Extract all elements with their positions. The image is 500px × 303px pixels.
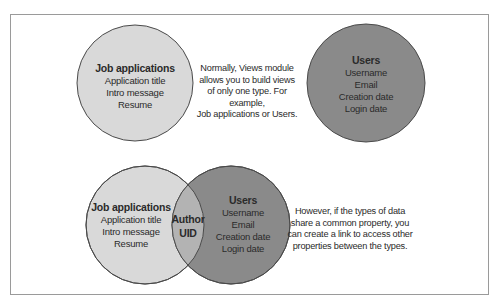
note-line: allows you to build views <box>191 75 303 87</box>
note-line: properties between the types. <box>280 241 420 253</box>
note-top: Normally, Views module allows you to bui… <box>191 63 303 121</box>
note-line: Normally, Views module <box>191 63 303 75</box>
field: Creation date <box>205 231 281 243</box>
overlap-line: UID <box>166 226 210 240</box>
circle-title: Users <box>316 53 416 67</box>
field: Resume <box>88 238 174 250</box>
field: Resume <box>85 99 185 111</box>
field: Application title <box>85 75 185 87</box>
field: Intro message <box>88 226 174 238</box>
job-applications-label-bottom: Job applications Application title Intro… <box>88 200 174 250</box>
field: Email <box>205 219 281 231</box>
circle-title: Job applications <box>85 61 185 75</box>
job-applications-label-top: Job applications Application title Intro… <box>85 61 185 111</box>
field: Login date <box>316 103 416 115</box>
field: Creation date <box>316 91 416 103</box>
circle-title: Users <box>205 193 281 207</box>
field: Username <box>316 67 416 79</box>
note-line: of only one type. For example, <box>191 86 303 109</box>
note-line: share a common property, you <box>280 218 420 230</box>
field: Intro message <box>85 87 185 99</box>
overlap-line: Author <box>166 212 210 226</box>
field: Email <box>316 79 416 91</box>
field: Login date <box>205 243 281 255</box>
circle-title: Job applications <box>88 200 174 214</box>
overlap-label: Author UID <box>166 212 210 240</box>
venn-diagrams <box>0 0 500 303</box>
field: Application title <box>88 214 174 226</box>
note-line: However, if the types of data <box>280 206 420 218</box>
users-label-top: Users Username Email Creation date Login… <box>316 53 416 115</box>
note-line: can create a link to access other <box>280 229 420 241</box>
note-line: Job applications or Users. <box>191 109 303 121</box>
field: Username <box>205 207 281 219</box>
note-bottom: However, if the types of data share a co… <box>280 206 420 252</box>
users-label-bottom: Users Username Email Creation date Login… <box>205 193 281 255</box>
